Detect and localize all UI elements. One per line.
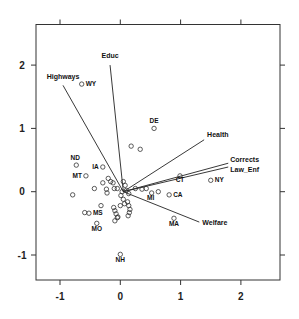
data-point-de bbox=[152, 126, 156, 130]
variable-label-corrects: Corrects bbox=[230, 156, 259, 163]
data-point-ia bbox=[101, 165, 105, 169]
axis-tick-labels: -1012-1012 bbox=[18, 60, 245, 302]
data-point-ca bbox=[167, 193, 171, 197]
variable-label-law_enf: Law_Enf bbox=[230, 166, 259, 173]
point-labels: WYDENDIAMTCTNYCAMIMAMSMONH bbox=[71, 80, 225, 263]
data-point-mt bbox=[84, 174, 88, 178]
point-label-wy: WY bbox=[86, 80, 97, 87]
data-point bbox=[101, 181, 105, 185]
x-tick-label: -1 bbox=[56, 291, 65, 302]
data-point-nd bbox=[74, 163, 78, 167]
axis-ticks bbox=[31, 20, 285, 286]
point-label-ia: IA bbox=[92, 163, 99, 170]
arrow-welfare bbox=[123, 192, 199, 222]
y-tick-label: 0 bbox=[19, 186, 25, 197]
variable-label-welfare: Welfare bbox=[202, 219, 227, 226]
point-label-mo: MO bbox=[92, 225, 102, 232]
y-tick-label: 1 bbox=[19, 123, 25, 134]
variable-label-highways: Highways bbox=[47, 73, 80, 81]
data-point bbox=[138, 147, 142, 151]
point-label-ca: CA bbox=[173, 191, 183, 198]
point-label-nh: NH bbox=[116, 256, 126, 263]
arrow-health bbox=[123, 140, 204, 192]
point-label-de: DE bbox=[150, 117, 160, 124]
data-point bbox=[115, 186, 119, 190]
data-point bbox=[144, 186, 148, 190]
point-label-mt: MT bbox=[73, 172, 82, 179]
data-point-ms bbox=[87, 211, 91, 215]
data-point bbox=[123, 183, 127, 187]
point-label-ny: NY bbox=[215, 176, 225, 183]
data-point bbox=[83, 210, 87, 214]
data-point bbox=[92, 186, 96, 190]
data-point-ny bbox=[209, 178, 213, 182]
y-tick-label: 2 bbox=[19, 60, 25, 71]
x-tick-label: 2 bbox=[238, 291, 244, 302]
point-label-ms: MS bbox=[93, 209, 103, 216]
y-tick-label: -1 bbox=[18, 250, 27, 261]
variable-arrows bbox=[63, 65, 228, 222]
biplot-chart: -1012-1012 WYDENDIAMTCTNYCAMIMAMSMONH Ed… bbox=[0, 0, 299, 319]
point-label-nd: ND bbox=[71, 154, 81, 161]
data-point bbox=[70, 193, 74, 197]
data-point bbox=[129, 144, 133, 148]
data-point bbox=[99, 203, 103, 207]
point-label-ct: CT bbox=[176, 176, 185, 183]
variable-label-educ: Educ bbox=[101, 52, 118, 59]
data-point bbox=[118, 203, 122, 207]
data-point bbox=[156, 190, 160, 194]
data-point-wy bbox=[80, 82, 84, 86]
point-label-ma: MA bbox=[169, 220, 179, 227]
point-label-mi: MI bbox=[147, 194, 154, 201]
variable-label-health: Health bbox=[207, 131, 228, 138]
x-tick-label: 1 bbox=[178, 291, 184, 302]
plot-frame bbox=[36, 25, 280, 281]
x-tick-label: 0 bbox=[118, 291, 124, 302]
